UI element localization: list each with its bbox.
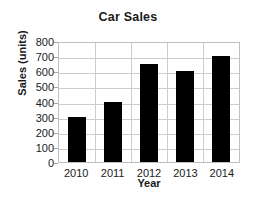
plot-area <box>58 42 240 163</box>
y-axis-tick-label: 0 <box>18 158 54 169</box>
x-axis-title: Year <box>58 177 240 189</box>
y-axis-tick-label: 200 <box>18 127 54 138</box>
bar-2013 <box>176 71 193 162</box>
bar-slot <box>167 43 203 162</box>
bar-slot <box>59 43 95 162</box>
y-axis-tick-label: 600 <box>18 67 54 78</box>
y-axis-tick-label: 400 <box>18 97 54 108</box>
car-sales-bar-chart: Car Sales Sales (units) 8007006005004003… <box>0 0 256 204</box>
y-axis-tick-label: 700 <box>18 52 54 63</box>
bar-2014 <box>212 56 229 162</box>
y-axis-tick-label: 500 <box>18 82 54 93</box>
y-axis-tick-label-group: 8007006005004003002001000 <box>18 42 54 163</box>
y-axis-tick-label: 100 <box>18 142 54 153</box>
bar-slot <box>131 43 167 162</box>
bar-slot <box>95 43 131 162</box>
y-axis-tick-mark <box>54 163 58 164</box>
bar-2011 <box>104 102 121 163</box>
bar-slot <box>203 43 239 162</box>
bar-series <box>59 43 239 162</box>
chart-title: Car Sales <box>0 10 256 24</box>
bar-2010 <box>68 117 85 162</box>
y-axis-tick-label: 300 <box>18 112 54 123</box>
bar-2012 <box>140 64 157 162</box>
y-axis-tick-label: 800 <box>18 37 54 48</box>
